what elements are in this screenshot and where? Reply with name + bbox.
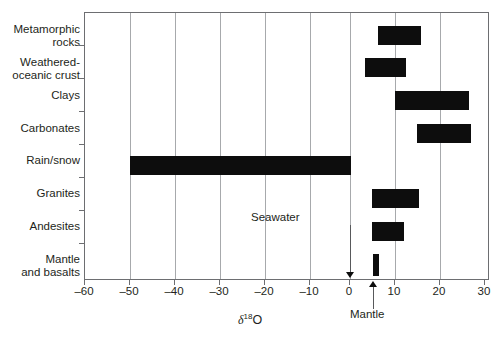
ytick-label-line: and basalts bbox=[0, 266, 80, 279]
gridline-minus30 bbox=[220, 13, 221, 279]
bar-metamorphic-rocks bbox=[378, 26, 421, 45]
chart-figure: Metamorphic rocks Weathered- oceanic cru… bbox=[0, 0, 500, 342]
ytick-label-metamorphic-rocks: Metamorphic rocks bbox=[0, 23, 80, 48]
xtick-label: –30 bbox=[199, 285, 239, 297]
ytick-label-rain-snow: Rain/snow bbox=[0, 154, 80, 167]
bar-granites bbox=[372, 189, 419, 208]
xtick-label: 20 bbox=[419, 285, 459, 297]
ytick-label-line: oceanic crust bbox=[0, 69, 80, 82]
x-axis-title: δ18O bbox=[238, 312, 262, 328]
annotation-label-seawater: Seawater bbox=[251, 211, 300, 223]
xtick-label: 0 bbox=[329, 285, 369, 297]
ytick-label-line: Granites bbox=[0, 187, 80, 200]
bar-mantle-and-basalts bbox=[373, 254, 379, 276]
ytick-label-line: rocks bbox=[0, 36, 80, 49]
ytick-label-granites: Granites bbox=[0, 187, 80, 200]
annotation-arrow-seawater bbox=[346, 272, 354, 278]
annotation-leader-seawater bbox=[350, 225, 351, 273]
ytick-label-clays: Clays bbox=[0, 89, 80, 102]
oxygen-symbol: O bbox=[252, 313, 262, 327]
ytick-label-mantle-and-basalts: Mantle and basalts bbox=[0, 253, 80, 278]
xtick-label: –60 bbox=[64, 285, 104, 297]
xtick-label: 30 bbox=[464, 285, 500, 297]
bar-carbonates bbox=[417, 124, 471, 143]
ytick-label-line: Rain/snow bbox=[0, 154, 80, 167]
bar-weathered-oceanic-crust bbox=[365, 58, 406, 77]
ytick-label-line: Metamorphic bbox=[0, 23, 80, 36]
gridline-minus10 bbox=[310, 13, 311, 279]
gridline-minus40 bbox=[175, 13, 176, 279]
ytick-label-line: Carbonates bbox=[0, 122, 80, 135]
ytick-label-line: Weathered- bbox=[0, 56, 80, 69]
gridline-20 bbox=[440, 13, 441, 279]
xtick-label: –40 bbox=[154, 285, 194, 297]
gridline-minus50 bbox=[130, 13, 131, 279]
bar-clays bbox=[395, 91, 469, 110]
ytick-label-weathered-oceanic-crust: Weathered- oceanic crust bbox=[0, 56, 80, 81]
ytick-label-carbonates: Carbonates bbox=[0, 122, 80, 135]
annotation-leader-mantle bbox=[373, 287, 374, 309]
plot-area: Seawater bbox=[84, 12, 489, 280]
xtick-label: –20 bbox=[244, 285, 284, 297]
xtick-label: 10 bbox=[374, 285, 414, 297]
annotation-label-mantle: Mantle bbox=[350, 308, 385, 320]
ytick-label-line: Clays bbox=[0, 89, 80, 102]
ytick-label-line: Mantle bbox=[0, 253, 80, 266]
bar-rain-snow bbox=[130, 156, 351, 175]
ytick-label-andesites: Andesites bbox=[0, 220, 80, 233]
gridline-minus20 bbox=[265, 13, 266, 279]
xtick-label: –50 bbox=[109, 285, 149, 297]
bar-andesites bbox=[372, 222, 404, 241]
ytick-label-line: Andesites bbox=[0, 220, 80, 233]
xtick-label: –10 bbox=[289, 285, 329, 297]
